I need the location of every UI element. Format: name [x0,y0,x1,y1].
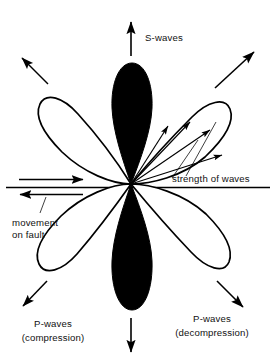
strength-of-waves-label: strength of waves [172,173,250,184]
s-waves-label: S-waves [145,32,183,43]
focal-mechanism-figure: S-waves strength of waves movement on fa… [0,0,276,362]
movement-on-fault-label-line1: movement [12,217,58,228]
p-waves-compression-label-line2: (compression) [22,332,85,343]
movement-on-fault-label-line2: on fault [12,229,45,240]
radiation-pattern-diagram: S-waves strength of waves movement on fa… [0,0,276,362]
p-waves-compression-label-line1: P-waves [34,318,72,329]
p-waves-decompression-label-line2: (decompression) [175,327,249,338]
p-waves-decompression-label-line1: P-waves [193,313,231,324]
